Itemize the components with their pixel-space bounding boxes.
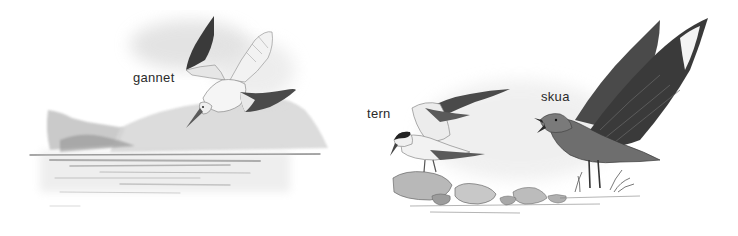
water-wash — [40, 152, 290, 192]
label-tern: tern — [367, 106, 391, 121]
tern-skua-scene — [390, 18, 708, 213]
label-skua: skua — [541, 89, 570, 104]
label-gannet: gannet — [133, 70, 175, 85]
seabird-illustration: gannet tern skua — [0, 0, 738, 236]
gannet-scene — [30, 16, 328, 206]
grass — [575, 170, 634, 192]
tern-beak — [390, 143, 398, 156]
